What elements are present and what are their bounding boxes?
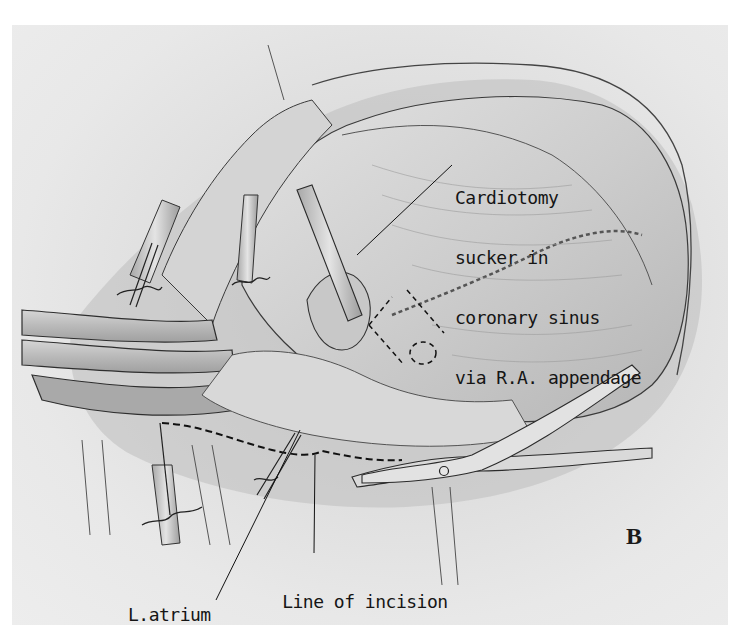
label-line-of-incision: Line of incision in r. atrium (s.v.c. & … — [277, 552, 453, 625]
scissors-pivot — [440, 467, 449, 476]
vessel-strand — [268, 45, 284, 100]
label-cardiotomy-sucker: Cardiotomy sucker in coronary sinus via … — [455, 148, 641, 428]
label-line: Line of incision — [277, 592, 453, 612]
label-line: sucker in — [455, 248, 641, 268]
panel-letter: B — [626, 523, 642, 550]
label-line: coronary sinus — [455, 308, 641, 328]
label-line: Cardiotomy — [455, 188, 641, 208]
illustration-panel: Cardiotomy sucker in coronary sinus via … — [12, 25, 728, 625]
label-left-atrium: L.atrium — [128, 605, 211, 625]
label-line: via R.A. appendage — [455, 368, 641, 388]
